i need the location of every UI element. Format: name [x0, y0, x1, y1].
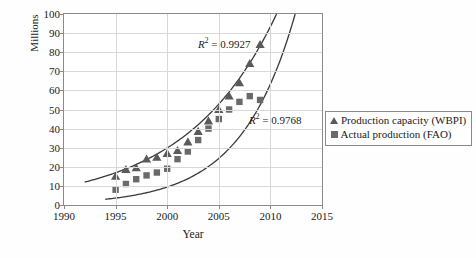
data-point-square-actual	[154, 169, 160, 175]
horizontal-gridline	[64, 167, 322, 168]
x-axis-title: Year	[182, 228, 203, 240]
x-axis-tick-mark	[64, 205, 65, 209]
x-axis-tick-mark	[219, 205, 220, 209]
x-axis-tick-label: 1990	[53, 210, 75, 222]
x-axis-tick-label: 2015	[311, 210, 333, 222]
data-point-square-actual	[174, 156, 180, 162]
horizontal-gridline	[64, 71, 322, 72]
y-axis-tick-mark	[60, 90, 64, 91]
data-point-triangle-capacity	[245, 59, 254, 67]
horizontal-gridline	[64, 129, 322, 130]
x-axis-tick-mark	[322, 205, 323, 209]
y-axis-units-label: Millions	[28, 14, 40, 51]
x-axis-tick-label: 2010	[259, 210, 281, 222]
chart-figure: 0102030405060708090100 19901995200020052…	[0, 0, 476, 258]
x-axis-tick-mark	[167, 205, 168, 209]
data-point-square-actual	[133, 176, 139, 182]
data-point-square-actual	[195, 137, 201, 143]
legend-item-actual-production: Actual production (FAO)	[329, 128, 469, 142]
x-axis-tick-label: 2000	[156, 210, 178, 222]
data-point-square-actual	[247, 93, 253, 99]
horizontal-gridline	[64, 90, 322, 91]
r-squared-annotation-capacity: R2 = 0.9927	[198, 36, 250, 50]
y-axis-tick-mark	[60, 33, 64, 34]
legend-label-actual-production: Actual production (FAO)	[341, 128, 452, 142]
r-squared-value-capacity: = 0.9927	[208, 38, 250, 50]
r-squared-symbol-capacity: R	[198, 38, 205, 50]
data-point-square-actual	[257, 97, 263, 103]
data-point-square-actual	[143, 172, 149, 178]
data-point-triangle-capacity	[152, 153, 161, 161]
horizontal-gridline	[64, 52, 322, 53]
y-axis-tick-mark	[60, 186, 64, 187]
square-marker-icon	[331, 131, 338, 138]
y-axis-tick-mark	[60, 129, 64, 130]
triangle-marker-icon	[330, 117, 338, 124]
y-axis-tick-mark	[60, 71, 64, 72]
data-point-triangle-capacity	[183, 137, 192, 145]
y-axis-tick-mark	[60, 52, 64, 53]
vertical-gridline	[116, 14, 117, 205]
vertical-gridline	[167, 14, 168, 205]
y-axis-tick-mark	[60, 148, 64, 149]
horizontal-gridline	[64, 33, 322, 34]
x-axis-tick-mark	[116, 205, 117, 209]
legend-label-production-capacity: Production capacity (WBPI)	[341, 114, 466, 128]
r-squared-symbol-actual: R	[249, 114, 256, 126]
x-axis-tick-label: 1995	[105, 210, 127, 222]
legend-item-production-capacity: Production capacity (WBPI)	[329, 114, 469, 128]
data-point-square-actual	[236, 99, 242, 105]
y-axis-tick-mark	[60, 167, 64, 168]
r-squared-value-actual: = 0.9768	[259, 114, 301, 126]
r-squared-annotation-actual: R2 = 0.9768	[249, 112, 301, 126]
horizontal-gridline	[64, 110, 322, 111]
horizontal-gridline	[64, 186, 322, 187]
y-axis-tick-mark	[60, 14, 64, 15]
x-axis-tick-label: 2005	[208, 210, 230, 222]
data-point-square-actual	[185, 148, 191, 154]
chart-legend: Production capacity (WBPI) Actual produc…	[325, 111, 472, 146]
horizontal-gridline	[64, 148, 322, 149]
vertical-gridline	[270, 14, 271, 205]
x-axis-tick-mark	[270, 205, 271, 209]
plot-area	[63, 13, 323, 206]
y-axis-tick-mark	[60, 110, 64, 111]
